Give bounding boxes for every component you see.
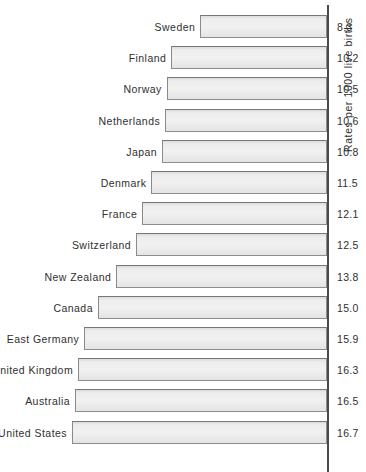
bar: [165, 109, 327, 132]
bar-row: Canada15.0: [0, 296, 366, 320]
value-label: 16.5: [337, 396, 359, 407]
value-axis-line: [327, 5, 329, 472]
bar: [171, 46, 327, 69]
bar: [116, 265, 327, 288]
value-axis-title: Rates per 1000 live births: [343, 0, 354, 152]
bar-row: France12.1: [0, 202, 366, 226]
category-label: New Zealand: [44, 271, 111, 282]
bar-row: United Kingdom16.3: [0, 358, 366, 382]
bar-chart: Sweden8.3Finland10.2Norway10.5Netherland…: [0, 0, 366, 472]
category-label: Sweden: [155, 22, 196, 33]
value-label: 15.0: [337, 303, 359, 314]
value-label: 16.7: [337, 427, 359, 438]
bar-row: Denmark11.5: [0, 171, 366, 195]
bar-row: Norway10.5: [0, 77, 366, 101]
plot-area: Sweden8.3Finland10.2Norway10.5Netherland…: [0, 0, 366, 472]
bar-row: Finland10.2: [0, 46, 366, 70]
bar-row: East Germany15.9: [0, 327, 366, 351]
bar: [167, 77, 327, 100]
bar: [78, 358, 327, 381]
value-label: 12.5: [337, 240, 359, 251]
category-label: Japan: [126, 147, 157, 158]
bar-row: Switzerland12.5: [0, 233, 366, 257]
category-label: United Kingdom: [0, 365, 73, 376]
category-label: East Germany: [7, 334, 80, 345]
bar-row: Japan10.8: [0, 140, 366, 164]
value-label: 12.1: [337, 209, 359, 220]
category-label: Norway: [123, 84, 161, 95]
category-label: France: [102, 209, 137, 220]
bar-row: Sweden8.3: [0, 15, 366, 39]
value-label: 15.9: [337, 334, 359, 345]
category-label: Netherlands: [99, 115, 161, 126]
bar: [151, 171, 327, 194]
category-label: Canada: [53, 303, 92, 314]
bar: [142, 202, 327, 225]
category-label: Switzerland: [72, 240, 131, 251]
bar: [98, 296, 327, 319]
category-label: United States: [0, 427, 67, 438]
bar: [162, 140, 327, 163]
category-label: Australia: [25, 396, 70, 407]
bar: [75, 389, 327, 412]
bar: [200, 15, 327, 38]
value-label: 16.3: [337, 365, 359, 376]
category-label: Finland: [129, 53, 167, 64]
bar: [84, 327, 327, 350]
bar-row: Australia16.5: [0, 389, 366, 413]
bar: [136, 233, 327, 256]
bar-row: New Zealand13.8: [0, 265, 366, 289]
bar: [72, 421, 327, 444]
value-label: 11.5: [337, 178, 358, 189]
bar-row: United States16.7: [0, 421, 366, 445]
bar-row: Netherlands10.6: [0, 109, 366, 133]
category-label: Denmark: [101, 178, 147, 189]
value-label: 13.8: [337, 271, 359, 282]
